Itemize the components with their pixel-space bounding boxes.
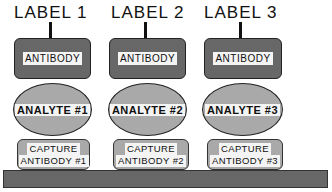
detection-antibody-1: ANTIBODY [14, 38, 91, 79]
label-1-linker [49, 22, 52, 39]
detection-antibody-2: ANTIBODY [109, 38, 186, 79]
analyte-1: ANALYTE #1 [13, 83, 92, 136]
label-2: LABEL 2 [111, 3, 184, 23]
label-2-linker [144, 22, 147, 39]
capture-antibody-1-line1: CAPTURE [27, 143, 79, 155]
detection-antibody-2-text: ANTIBODY [118, 52, 177, 65]
analyte-3: ANALYTE #3 [202, 83, 283, 136]
capture-antibody-2-line1: CAPTURE [125, 143, 177, 155]
capture-antibody-3-line2: ANTIBODY #3 [210, 155, 280, 167]
detection-antibody-3: ANTIBODY [204, 38, 282, 79]
capture-antibody-1: CAPTURE ANTIBODY #1 [17, 139, 90, 170]
capture-antibody-3-line1: CAPTURE [219, 143, 271, 155]
capture-antibody-1-line2: ANTIBODY #1 [19, 155, 89, 167]
analyte-2-text: ANALYTE #2 [110, 104, 185, 116]
analyte-1-text: ANALYTE #1 [15, 104, 90, 116]
capture-antibody-2-line2: ANTIBODY #2 [116, 155, 186, 167]
label-3-linker [239, 22, 242, 39]
analyte-2: ANALYTE #2 [108, 83, 187, 136]
capture-antibody-2: CAPTURE ANTIBODY #2 [113, 139, 189, 170]
detection-antibody-1-text: ANTIBODY [23, 52, 82, 65]
label-1: LABEL 1 [14, 3, 87, 23]
capture-antibody-3: CAPTURE ANTIBODY #3 [207, 139, 283, 170]
label-3: LABEL 3 [204, 3, 277, 23]
analyte-3-text: ANALYTE #3 [205, 104, 280, 116]
detection-antibody-3-text: ANTIBODY [213, 52, 272, 65]
solid-substrate [3, 170, 328, 188]
